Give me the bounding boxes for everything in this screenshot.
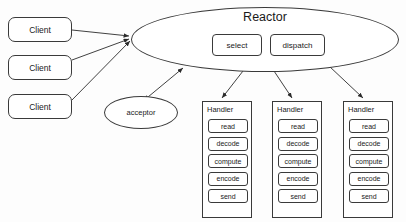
handler-step-encode[interactable]: encode	[208, 172, 248, 186]
edge-client-2-to-reactor	[72, 39, 129, 60]
diagram-canvas: Client Client Client Reactor select disp…	[0, 0, 406, 222]
handler-step-list: read decode compute encode send	[273, 119, 323, 203]
handler-node-2[interactable]: Handler read decode compute encode send	[272, 101, 322, 218]
handler-step-compute[interactable]: compute	[349, 154, 389, 168]
edge-client-1-to-reactor	[72, 30, 129, 36]
acceptor-label: acceptor	[127, 108, 156, 117]
handler-step-compute[interactable]: compute	[208, 154, 248, 168]
handler-node-1[interactable]: Handler read decode compute encode send	[202, 101, 252, 218]
handler-step-label: encode	[217, 175, 240, 182]
handler-step-compute[interactable]: compute	[278, 154, 318, 168]
handler-step-label: send	[290, 193, 305, 200]
client-label: Client	[29, 102, 51, 112]
handler-step-read[interactable]: read	[349, 119, 389, 133]
handler-node-3[interactable]: Handler read decode compute encode send	[343, 101, 393, 218]
handler-step-read[interactable]: read	[278, 119, 318, 133]
handler-step-list: read decode compute encode send	[344, 119, 394, 203]
handler-step-send[interactable]: send	[208, 189, 248, 203]
handler-step-read[interactable]: read	[208, 119, 248, 133]
client-node-1[interactable]: Client	[8, 17, 72, 42]
client-label: Client	[29, 63, 51, 73]
handler-step-encode[interactable]: encode	[349, 172, 389, 186]
handler-step-send[interactable]: send	[349, 189, 389, 203]
handler-label: Handler	[348, 105, 374, 114]
reactor-operation-dispatch[interactable]: dispatch	[270, 34, 325, 56]
handler-label: Handler	[277, 105, 303, 114]
handler-step-label: read	[291, 123, 305, 130]
edge-reactor-to-handler-3	[329, 66, 363, 98]
handler-step-decode[interactable]: decode	[349, 137, 389, 151]
handler-step-label: compute	[215, 158, 242, 165]
handler-step-label: read	[362, 123, 376, 130]
handler-step-decode[interactable]: decode	[278, 137, 318, 151]
handler-step-label: read	[221, 123, 235, 130]
handler-step-label: send	[361, 193, 376, 200]
handler-step-list: read decode compute encode send	[203, 119, 253, 203]
handler-step-label: decode	[358, 140, 381, 147]
client-node-2[interactable]: Client	[8, 55, 72, 80]
reactor-operation-select[interactable]: select	[212, 34, 262, 56]
client-node-3[interactable]: Client	[8, 94, 72, 119]
handler-step-label: encode	[358, 175, 381, 182]
reactor-operation-label: select	[227, 41, 248, 50]
handler-label: Handler	[207, 105, 233, 114]
edge-client-3-to-reactor	[72, 41, 130, 100]
acceptor-node[interactable]: acceptor	[104, 96, 178, 129]
edge-reactor-to-handler-1	[222, 71, 243, 98]
client-label: Client	[29, 25, 51, 35]
reactor-operation-label: dispatch	[283, 41, 313, 50]
handler-step-decode[interactable]: decode	[208, 137, 248, 151]
handler-step-label: compute	[356, 158, 383, 165]
reactor-label: Reactor	[131, 10, 399, 24]
handler-step-encode[interactable]: encode	[278, 172, 318, 186]
handler-step-label: compute	[285, 158, 312, 165]
handler-step-label: encode	[287, 175, 310, 182]
edge-acceptor-reactor	[148, 68, 183, 97]
edge-reactor-to-handler-2	[274, 71, 292, 98]
handler-step-send[interactable]: send	[278, 189, 318, 203]
handler-step-label: send	[220, 193, 235, 200]
handler-step-label: decode	[287, 140, 310, 147]
handler-step-label: decode	[217, 140, 240, 147]
